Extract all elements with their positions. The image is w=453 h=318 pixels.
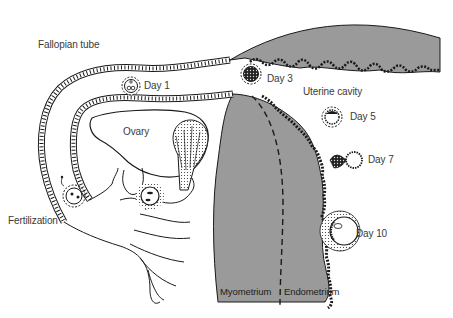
embryo-day7 [330, 152, 362, 168]
label-day5: Day 5 [350, 111, 376, 122]
label-day3: Day 3 [267, 73, 293, 84]
label-fallopian-tube: Fallopian tube [38, 39, 99, 50]
label-day10: Day 10 [356, 228, 387, 239]
label-myometrium: Myometrium [220, 286, 271, 297]
label-day1: Day 1 [144, 80, 170, 91]
embryo-day10 [320, 211, 360, 251]
embryo-day1 [122, 77, 140, 95]
label-endometrium: Endometrium [284, 286, 339, 297]
label-uterine-cavity: Uterine cavity [303, 86, 362, 97]
ovulated-egg [136, 182, 164, 210]
label-fertilization: Fertilization [8, 215, 58, 226]
label-day7: Day 7 [368, 154, 394, 165]
embryo-day5 [322, 107, 342, 127]
ovary [90, 110, 208, 190]
label-ovary: Ovary [123, 126, 149, 137]
embryo-day3 [241, 64, 261, 84]
